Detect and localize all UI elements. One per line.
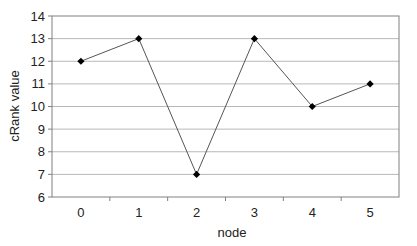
y-tick-label: 13 <box>31 31 45 46</box>
x-tick-label: 1 <box>135 205 142 220</box>
y-tick-label: 9 <box>38 122 45 137</box>
line-chart: 67891011121314 012345 node cRank value <box>0 0 417 246</box>
y-axis-title: cRank value <box>7 70 22 142</box>
y-tick-label: 10 <box>31 99 45 114</box>
y-tick-label: 11 <box>32 76 46 91</box>
y-tick-label: 6 <box>38 190 45 205</box>
y-tick-label: 8 <box>38 144 45 159</box>
x-tick-label: 4 <box>309 205 316 220</box>
y-tick-label: 14 <box>31 9 45 24</box>
diamond-marker-icon <box>135 35 142 42</box>
diamond-marker-icon <box>77 58 84 65</box>
x-axis-title: node <box>218 225 247 240</box>
diamond-marker-icon <box>366 80 373 87</box>
diamond-marker-icon <box>193 171 200 178</box>
y-tick-label: 12 <box>31 54 45 69</box>
x-tick-label: 3 <box>251 205 258 220</box>
x-axis: 012345 <box>77 197 373 220</box>
x-tick-label: 2 <box>193 205 200 220</box>
y-tick-label: 7 <box>38 167 45 182</box>
y-axis: 67891011121314 <box>31 9 52 205</box>
x-tick-label: 0 <box>77 205 84 220</box>
x-tick-label: 5 <box>366 205 373 220</box>
